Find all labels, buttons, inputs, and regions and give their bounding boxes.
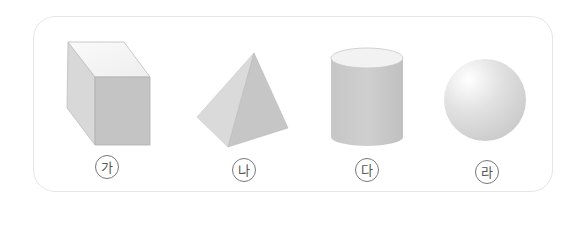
label-ra: 라: [475, 160, 499, 184]
rectangular-prism-icon: [67, 42, 150, 145]
label-da: 다: [355, 158, 379, 182]
label-ga: 가: [95, 155, 119, 179]
pyramid-icon: [197, 53, 288, 147]
sphere-icon: [444, 59, 526, 141]
cylinder-icon: [331, 48, 403, 146]
label-na: 나: [232, 158, 256, 182]
